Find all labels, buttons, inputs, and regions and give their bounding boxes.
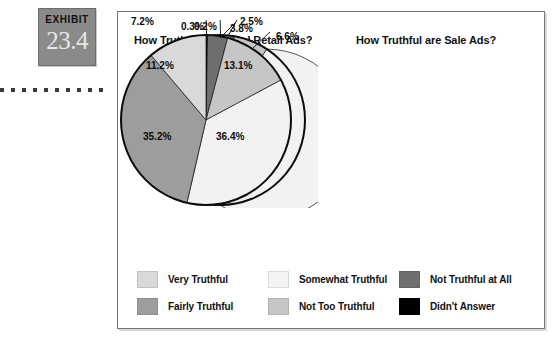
pie-right-label-not-truthful-at-all: 3.8% [230, 23, 253, 34]
legend-label-somewhat-truthful: Somewhat Truthful [299, 274, 387, 285]
legend-swatch-somewhat-truthful [268, 271, 289, 288]
dotted-rule-decoration [0, 88, 107, 92]
chart-legend: Very Truthful Somewhat Truthful Not Trut… [137, 266, 529, 320]
legend-label-fairly-truthful: Fairly Truthful [168, 301, 233, 312]
legend-item-very-truthful: Very Truthful [137, 271, 268, 288]
exhibit-chart-frame: How Truthful are Local Retail Ads? How T… [117, 11, 545, 329]
pie-right-label-somewhat-truthful: 36.4% [216, 131, 244, 142]
legend-item-not-truthful-at-all: Not Truthful at All [399, 271, 529, 288]
legend-swatch-very-truthful [137, 271, 158, 288]
legend-label-not-truthful-at-all: Not Truthful at All [430, 274, 512, 285]
pie-chart-title-sale-ads: How Truthful are Sale Ads? [356, 34, 496, 46]
legend-swatch-not-truthful-at-all [399, 271, 420, 288]
pie-right-label-didnt-answer: 0.3% [181, 21, 204, 32]
exhibit-label: EXHIBIT [45, 14, 89, 25]
legend-label-very-truthful: Very Truthful [168, 274, 228, 285]
exhibit-badge: EXHIBIT 23.4 [38, 8, 96, 66]
legend-label-didnt-answer: Didn't Answer [430, 301, 495, 312]
legend-swatch-fairly-truthful [137, 298, 158, 315]
legend-item-fairly-truthful: Fairly Truthful [137, 298, 268, 315]
legend-label-not-too-truthful: Not Too Truthful [299, 301, 374, 312]
pie-right-label-very-truthful: 11.2% [146, 60, 174, 71]
legend-swatch-not-too-truthful [268, 298, 289, 315]
pie-right-label-fairly-truthful: 35.2% [143, 131, 171, 142]
legend-swatch-didnt-answer [399, 298, 420, 315]
legend-item-somewhat-truthful: Somewhat Truthful [268, 271, 399, 288]
pie-right-svg [118, 12, 308, 208]
exhibit-number: 23.4 [46, 27, 88, 55]
legend-item-not-too-truthful: Not Too Truthful [268, 298, 399, 315]
legend-item-didnt-answer: Didn't Answer [399, 298, 529, 315]
pie-right-label-not-too-truthful: 13.1% [224, 60, 252, 71]
